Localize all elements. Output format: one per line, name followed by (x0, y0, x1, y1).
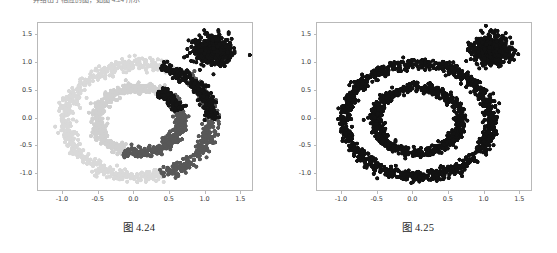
figure-caption-4-24: 图 4.24 (0, 219, 278, 234)
y-axis-tick-label: 1.0 (5, 58, 32, 66)
y-tick-mark (35, 90, 38, 91)
plot-area-left: 1.51.00.50.0-0.5-1.0-1.0-0.50.00.51.01.5 (0, 0, 278, 215)
y-axis-tick-label: -1.0 (5, 169, 32, 177)
x-axis-tick-label: 1.0 (478, 195, 488, 203)
y-axis-tick-label: -1.0 (284, 169, 311, 177)
y-tick-mark (314, 34, 317, 35)
x-axis-tick-label: 1.0 (199, 195, 209, 203)
y-axis-tick-label: 0.5 (284, 86, 311, 94)
axes-frame-right (316, 22, 532, 191)
y-tick-mark (314, 118, 317, 119)
y-axis-tick-label: 1.5 (284, 30, 311, 38)
x-tick-mark (484, 191, 485, 194)
x-axis-tick-label: 0.0 (407, 195, 417, 203)
x-tick-mark (62, 191, 63, 194)
x-tick-mark (377, 191, 378, 194)
plot-area-right: 1.51.00.50.0-0.5-1.0-1.0-0.50.00.51.01.5 (279, 0, 557, 215)
scatter-plot-canvas-right (317, 23, 531, 190)
x-tick-mark (133, 191, 134, 194)
x-tick-mark (98, 191, 99, 194)
y-axis-tick-label: 0.0 (5, 114, 32, 122)
y-tick-mark (314, 62, 317, 63)
y-axis-tick-label: -0.5 (284, 141, 311, 149)
x-tick-mark (169, 191, 170, 194)
x-axis-tick-label: -1.0 (335, 195, 347, 203)
x-axis-tick-label: 0.5 (443, 195, 453, 203)
x-axis-tick-label: 0.5 (164, 195, 174, 203)
x-axis-tick-label: 1.5 (235, 195, 245, 203)
x-axis-tick-label: -0.5 (91, 195, 103, 203)
x-axis-tick-label: 1.5 (514, 195, 524, 203)
x-axis-tick-label: -0.5 (370, 195, 382, 203)
y-tick-mark (35, 173, 38, 174)
axes-frame-left (37, 22, 253, 191)
x-tick-mark (448, 191, 449, 194)
x-tick-mark (240, 191, 241, 194)
scatter-plot-canvas-left (38, 23, 252, 190)
y-tick-mark (35, 62, 38, 63)
y-tick-mark (35, 118, 38, 119)
x-tick-mark (341, 191, 342, 194)
figure-caption-4-25: 图 4.25 (279, 219, 557, 234)
y-tick-mark (314, 145, 317, 146)
y-tick-mark (35, 34, 38, 35)
x-tick-mark (205, 191, 206, 194)
y-axis-tick-label: -0.5 (5, 141, 32, 149)
y-tick-mark (35, 145, 38, 146)
y-axis-tick-label: 1.5 (5, 30, 32, 38)
x-axis-tick-label: 0.0 (128, 195, 138, 203)
x-axis-tick-label: -1.0 (56, 195, 68, 203)
x-tick-mark (412, 191, 413, 194)
y-axis-tick-label: 0.5 (5, 86, 32, 94)
y-axis-tick-label: 0.0 (284, 114, 311, 122)
x-tick-mark (519, 191, 520, 194)
y-axis-tick-label: 1.0 (284, 58, 311, 66)
y-tick-mark (314, 173, 317, 174)
y-tick-mark (314, 90, 317, 91)
